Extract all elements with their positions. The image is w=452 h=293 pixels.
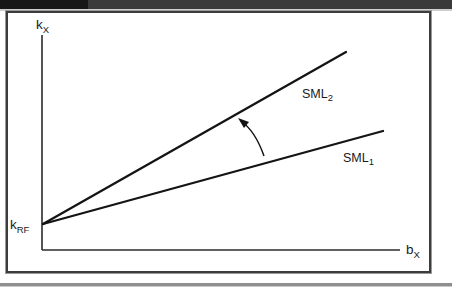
sml-2-label-base: SML bbox=[302, 87, 328, 101]
sml-1-label: SML1 bbox=[343, 151, 374, 167]
y-axis-label-subscript: X bbox=[43, 24, 50, 35]
page-scan-top-band bbox=[0, 0, 452, 9]
page-scan-top-band-dark-segment bbox=[0, 0, 88, 9]
sml-2-label: SML2 bbox=[302, 87, 333, 103]
sml-1-label-subscript: 1 bbox=[369, 156, 374, 167]
sml-1-line bbox=[43, 131, 383, 224]
sml-2-label-subscript: 2 bbox=[328, 92, 333, 103]
x-axis-label-subscript: X bbox=[414, 249, 421, 260]
page-bottom-rule-secondary bbox=[0, 286, 452, 287]
sml-2-line bbox=[43, 52, 346, 224]
x-axis-label-base: b bbox=[406, 242, 414, 257]
sml-chart: kX bX kRF SML2 SML1 bbox=[6, 11, 431, 273]
x-axis-label: bX bbox=[406, 242, 421, 260]
risk-free-rate-label-subscript: RF bbox=[17, 224, 30, 235]
sml-1-label-base: SML bbox=[343, 151, 369, 165]
y-axis-label: kX bbox=[36, 17, 50, 35]
rotation-arrow bbox=[238, 118, 264, 156]
risk-free-rate-label: kRF bbox=[10, 217, 30, 235]
